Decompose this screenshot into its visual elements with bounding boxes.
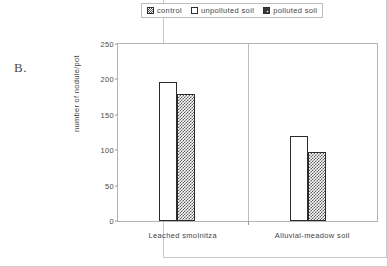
legend-item[interactable]: unpolluted soil <box>191 6 254 15</box>
crosshatch-square-icon <box>263 7 270 14</box>
bar <box>177 94 195 221</box>
x-axis-category-label: Alluvial-meadow soil <box>275 231 350 240</box>
y-axis-tick-mark <box>115 114 118 115</box>
legend-item[interactable]: polluted soil <box>263 6 317 15</box>
x-axis-tick-mark <box>248 221 249 225</box>
chart-legend: controlunpolluted soilpolluted soil <box>141 3 323 18</box>
checker-small-icon <box>147 7 154 14</box>
y-axis-tick-label: 50 <box>105 181 114 190</box>
y-axis-tick-label: 0 <box>110 217 114 226</box>
y-axis-title: number of nodule/pot <box>72 55 81 132</box>
y-axis-tick-label: 200 <box>101 75 114 84</box>
y-axis-tick-label: 150 <box>101 110 114 119</box>
panel-label: B. <box>14 60 27 76</box>
y-axis-tick-label: 100 <box>101 146 114 155</box>
bar <box>308 152 326 221</box>
plot-inner: 050100150200250Leached smolnitzaAlluvial… <box>118 44 377 221</box>
legend-item-label: unpolluted soil <box>201 6 254 15</box>
y-axis-tick-mark <box>115 44 118 45</box>
white-square-icon <box>191 7 198 14</box>
legend-item-label: control <box>157 6 182 15</box>
y-axis-tick-mark <box>115 185 118 186</box>
bar <box>159 82 177 221</box>
plot-area: 050100150200250Leached smolnitzaAlluvial… <box>117 43 378 222</box>
y-axis-tick-mark <box>115 150 118 151</box>
figure-container: B. controlunpolluted soilpolluted soil 0… <box>0 0 388 267</box>
bar <box>290 136 308 221</box>
legend-item[interactable]: control <box>147 6 182 15</box>
category-separator <box>248 44 249 221</box>
y-axis-tick-label: 250 <box>101 40 114 49</box>
legend-item-label: polluted soil <box>273 6 317 15</box>
x-axis-category-label: Leached smolnitza <box>149 231 218 240</box>
y-axis-tick-mark <box>115 221 118 222</box>
y-axis-tick-mark <box>115 79 118 80</box>
